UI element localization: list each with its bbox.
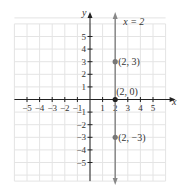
data-point-label: (2, 0)	[116, 86, 138, 98]
x-tick-label: 3	[126, 103, 131, 113]
y-tick-label: 2	[82, 69, 87, 79]
y-axis-label: y	[81, 7, 87, 18]
data-point	[113, 59, 118, 64]
axes	[14, 12, 175, 181]
x-tick-label: −2	[60, 103, 70, 113]
data-point-label: (2, 3)	[118, 56, 140, 68]
y-tick-label: 1	[82, 82, 87, 92]
coordinate-plane: −5−4−3−2−112345−5−4−3−2−112345 x = 2 (2,…	[0, 0, 187, 190]
y-tick-label: −1	[76, 107, 86, 117]
data-point	[113, 97, 118, 102]
y-tick-label: −4	[76, 145, 86, 155]
data-point	[113, 135, 118, 140]
x-tick-label: −3	[47, 103, 57, 113]
x-tick-label: −5	[22, 103, 32, 113]
y-tick-label: 3	[82, 57, 87, 67]
y-axis-arrow-icon	[88, 12, 93, 18]
y-tick-label: −5	[76, 158, 86, 168]
arrow-up-icon	[113, 12, 118, 19]
y-tick-label: 4	[82, 44, 87, 54]
x-tick-label: 5	[151, 103, 156, 113]
y-tick-label: −2	[76, 120, 86, 130]
y-tick-label: −3	[76, 132, 86, 142]
line-equation-label: x = 2	[122, 16, 144, 27]
x-tick-label: −4	[35, 103, 45, 113]
x-tick-label: 4	[138, 103, 143, 113]
x-axis-label: x	[171, 96, 177, 107]
x-tick-label: 1	[100, 103, 105, 113]
y-tick-label: 5	[82, 32, 87, 42]
data-point-label: (2, −3)	[118, 132, 145, 144]
